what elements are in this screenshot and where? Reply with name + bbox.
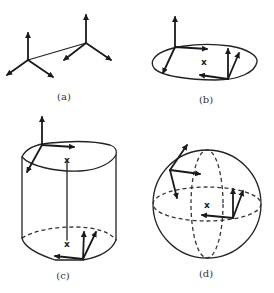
panel-a: (a)	[7, 15, 111, 102]
center-mark-bottom: x	[64, 239, 70, 249]
arrow-down-right-icon	[86, 43, 111, 60]
panel-label: (b)	[199, 94, 213, 105]
frame-right	[64, 15, 111, 60]
arrow-down-icon	[170, 170, 177, 198]
arrow-up-right-icon	[170, 145, 187, 170]
panel-label: (d)	[199, 268, 213, 279]
diagram-canvas: (a) x (b) x x (c) x	[0, 0, 274, 293]
panel-label: (c)	[56, 270, 70, 281]
center-mark: x	[201, 57, 207, 67]
center-mark: x	[204, 200, 210, 210]
arrow-down-right-icon	[28, 60, 53, 77]
arrow-left-icon	[202, 215, 233, 218]
arrow-left-icon	[55, 256, 83, 259]
arrow-up-right-icon	[233, 191, 243, 218]
arrow-up-icon	[83, 232, 84, 259]
panel-c: x x (c)	[22, 117, 116, 281]
arrow-left-icon	[200, 75, 228, 79]
panel-d: x (d)	[153, 145, 261, 279]
arrow-up-right-icon	[228, 53, 239, 79]
arrow-right-icon	[175, 47, 207, 49]
panel-b: x (b)	[152, 17, 257, 105]
arrow-right-icon	[42, 145, 74, 147]
panel-label: (a)	[57, 91, 71, 102]
arrow-down-left-icon	[7, 60, 28, 75]
center-mark-top: x	[64, 155, 70, 165]
arrow-up-right-icon	[83, 232, 96, 259]
arrow-right-icon	[170, 170, 200, 174]
connecting-line	[28, 43, 86, 60]
